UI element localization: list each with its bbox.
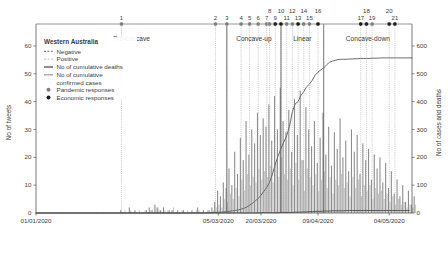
response-marker-pandemic: [225, 22, 229, 26]
bar-positive: [256, 182, 257, 213]
bar-positive: [230, 194, 231, 213]
axis-bottom-tick-label: 20/03/2020: [246, 217, 278, 224]
bar-negative: [368, 149, 369, 213]
bar-negative: [149, 207, 150, 213]
bar-positive: [244, 191, 245, 213]
response-marker-pandemic: [285, 22, 289, 26]
bar-negative: [382, 182, 383, 213]
bar-negative: [357, 135, 358, 213]
response-marker-number: 7: [265, 15, 269, 21]
bar-positive: [352, 177, 353, 213]
bar-negative: [351, 129, 352, 213]
axis-right-tick-label: 0: [417, 209, 421, 216]
bar-positive: [290, 168, 291, 213]
phase-label: Linear: [293, 35, 312, 42]
phase-label: Concave-up: [236, 35, 272, 43]
bar-negative: [163, 207, 164, 213]
bar-negative: [328, 127, 329, 213]
bar-negative: [217, 191, 218, 213]
bar-negative: [251, 129, 252, 213]
bar-negative: [345, 141, 346, 213]
axis-bottom-tick-label: 05/03/2020: [203, 217, 235, 224]
bar-negative: [311, 146, 312, 213]
bar-negative: [320, 138, 321, 213]
bar-negative: [388, 188, 389, 213]
bar-negative: [263, 118, 264, 213]
response-marker-number: 3: [225, 15, 229, 21]
bar-negative: [362, 143, 363, 213]
bar-positive: [236, 188, 237, 213]
bar-positive: [312, 185, 313, 213]
legend-item-label: No of cumulative deaths: [57, 63, 123, 70]
response-marker-pandemic: [370, 22, 374, 26]
legend-item-label: Pandemic responses: [57, 86, 115, 93]
response-marker-number: 17: [357, 15, 364, 21]
response-marker-number: 4: [239, 15, 243, 21]
response-marker-number: 5: [248, 15, 252, 21]
response-marker-economic: [387, 22, 391, 26]
bar-negative: [354, 152, 355, 213]
axis-left-zero-label: 0: [28, 209, 32, 216]
bar-positive: [321, 180, 322, 213]
bar-negative: [268, 104, 269, 213]
legend-item-label: confirmed cases: [57, 79, 102, 86]
axis-bottom-tick-label: 04/05/2020: [374, 217, 406, 224]
bar-negative: [391, 171, 392, 213]
response-marker-economic: [273, 22, 277, 26]
response-marker-number: 14: [300, 8, 307, 14]
bar-negative: [154, 205, 155, 213]
legend-title: Western Australia: [44, 38, 98, 45]
bar-positive: [367, 191, 368, 213]
response-marker-pandemic: [248, 22, 252, 26]
bar-positive: [304, 191, 305, 213]
response-marker-economic: [296, 22, 300, 26]
response-marker-pandemic: [290, 22, 294, 26]
bar-positive: [381, 191, 382, 213]
bar-negative: [348, 171, 349, 213]
response-marker-number: 8: [268, 8, 272, 14]
response-marker-economic: [279, 22, 283, 26]
response-marker-pandemic: [256, 22, 260, 26]
response-marker-number: 21: [392, 15, 399, 21]
bar-negative: [377, 168, 378, 213]
response-marker-number: 19: [369, 15, 376, 21]
legend-item-label: No of cumulative: [57, 71, 104, 78]
bar-positive: [389, 202, 390, 213]
bar-negative: [371, 180, 372, 213]
bar-negative: [317, 163, 318, 213]
bar-positive: [261, 180, 262, 213]
axis-left-tick-label: 30: [25, 126, 32, 133]
bar-negative: [397, 180, 398, 213]
axis-left-tick-label: 40: [25, 98, 32, 105]
response-marker-rail: 123456789101112131415161718192021: [36, 8, 412, 26]
axis-left-tick-label: 20: [25, 153, 32, 160]
bar-positive: [332, 194, 333, 213]
bar-negative: [294, 99, 295, 213]
axis-right-tick-label: 600: [417, 42, 428, 49]
bar-negative: [291, 152, 292, 213]
response-marker-pandemic: [307, 22, 311, 26]
bar-negative: [254, 143, 255, 213]
legend-swatch-marker: [47, 96, 51, 100]
bar-positive: [270, 166, 271, 213]
response-marker-economic: [316, 22, 320, 26]
response-marker-pandemic: [239, 22, 243, 26]
bar-positive: [344, 188, 345, 213]
bar-negative: [308, 129, 309, 213]
bar-negative: [277, 129, 278, 213]
chart-root: 1020304050600No of tweets010020030040050…: [0, 0, 448, 257]
bar-positive: [358, 180, 359, 213]
bar-positive: [264, 171, 265, 213]
response-marker-number: 13: [295, 15, 302, 21]
bar-positive: [330, 177, 331, 213]
bar-positive: [310, 177, 311, 213]
bar-negative: [214, 202, 215, 213]
response-marker-number: 16: [315, 8, 322, 14]
bar-negative: [402, 185, 403, 213]
bar-negative: [300, 90, 301, 213]
bar-positive: [295, 163, 296, 213]
bar-positive: [224, 199, 225, 213]
bar-negative: [325, 155, 326, 213]
bar-negative: [365, 160, 366, 213]
bar-negative: [340, 118, 341, 213]
